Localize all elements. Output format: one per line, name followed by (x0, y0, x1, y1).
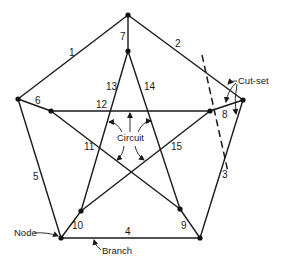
node-label: Node (14, 227, 37, 238)
node-outer-top (125, 12, 130, 17)
label-1: 1 (69, 47, 75, 58)
outer-pentagon (18, 15, 243, 238)
label-10: 10 (72, 220, 84, 231)
inner-pentagram (51, 51, 210, 211)
node-annotation: Node (14, 227, 58, 238)
node-inner-left (48, 108, 53, 113)
label-6: 6 (35, 95, 41, 106)
branch-15 (81, 111, 210, 211)
node-inner-bottom-right (177, 206, 182, 211)
branch-annotation: Branch (94, 240, 132, 256)
node-inner-bottom-left (78, 208, 83, 213)
spokes (18, 15, 243, 238)
label-3: 3 (222, 169, 228, 180)
node-inner-top (125, 48, 130, 53)
circuit-label: Circuit (117, 132, 144, 143)
label-12: 12 (96, 99, 108, 110)
circuit-arrow-downright (135, 146, 144, 160)
label-8: 8 (222, 109, 228, 120)
label-7: 7 (120, 31, 126, 42)
circuit-annotation: Circuit (109, 113, 151, 160)
node-inner-right (207, 108, 212, 113)
branch-11 (51, 111, 180, 209)
branch-arrow (94, 240, 101, 250)
node-outer-bottom-left (58, 235, 63, 240)
cut-set-arrow-3 (235, 84, 237, 114)
label-13: 13 (106, 81, 118, 92)
cut-set-annotation: Cut-set (226, 75, 269, 114)
label-2: 2 (175, 38, 181, 49)
nodes (15, 12, 245, 240)
label-9: 9 (181, 220, 187, 231)
node-outer-right (240, 97, 245, 102)
circuit-arrow-upleft (109, 122, 122, 132)
node-outer-left (15, 96, 20, 101)
label-11: 11 (84, 141, 95, 152)
label-15: 15 (171, 141, 183, 152)
branch-label: Branch (102, 245, 132, 256)
label-4: 4 (125, 226, 131, 237)
circuit-arrow-downleft (117, 146, 124, 160)
label-5: 5 (33, 171, 39, 182)
branch-5 (18, 99, 61, 238)
cut-set-label: Cut-set (238, 75, 269, 86)
label-14: 14 (144, 81, 156, 92)
graph-diagram: 1 2 3 4 5 6 7 8 9 10 11 12 13 14 15 Circ… (0, 0, 281, 267)
branch-13 (81, 51, 128, 211)
node-outer-bottom-right (197, 235, 202, 240)
circuit-arrow-upright (138, 121, 151, 132)
branch-14 (128, 51, 180, 209)
cut-set-arrow-2 (226, 83, 236, 102)
node-arrow (34, 233, 58, 236)
